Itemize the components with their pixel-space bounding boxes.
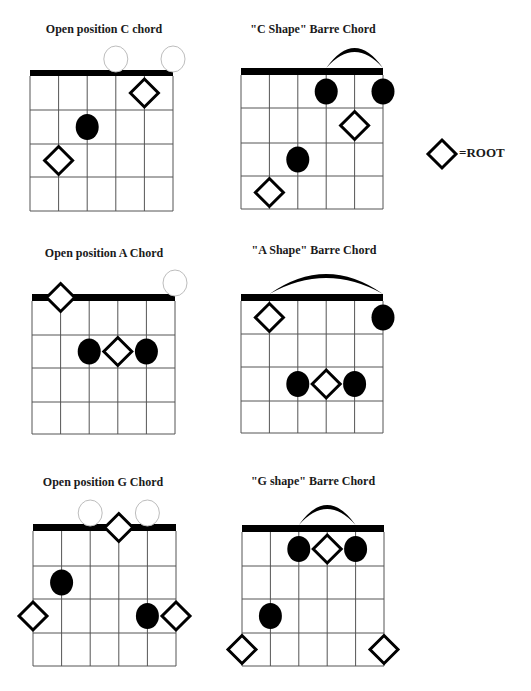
barre-arc [269, 274, 383, 294]
finger-dot [286, 147, 309, 173]
chord-diagrams-canvas [0, 0, 531, 691]
root-diamond [341, 112, 369, 140]
root-diamond [312, 370, 340, 398]
open-string-circle [161, 46, 185, 72]
finger-dot [344, 536, 367, 562]
chord-diagram-open-a [32, 270, 187, 434]
open-string-circle [104, 46, 128, 72]
barre-arc [326, 48, 383, 68]
root-diamond [45, 147, 73, 175]
chord-diagram-c-shape-barre [241, 48, 395, 209]
finger-dot [287, 536, 310, 562]
finger-dot [372, 79, 395, 105]
finger-dot [286, 371, 309, 397]
legend-root-diamond-icon [428, 140, 456, 168]
chord-diagram-open-g [19, 500, 190, 666]
chord-diagram-open-c [30, 46, 185, 211]
finger-dot [50, 570, 73, 596]
root-diamond [19, 602, 47, 630]
root-diamond [228, 636, 256, 664]
finger-dot [78, 339, 101, 365]
finger-dot [315, 79, 338, 105]
finger-dot [135, 339, 158, 365]
nut-bar [241, 294, 383, 301]
chord-diagram-g-shape-barre [228, 505, 398, 666]
root-diamond [255, 304, 283, 332]
finger-dot [259, 603, 282, 629]
nut-bar [30, 70, 173, 76]
root-diamond [47, 284, 75, 312]
root-diamond [255, 179, 283, 207]
finger-dot [76, 114, 99, 140]
open-string-circle [78, 500, 102, 526]
nut-bar [242, 525, 384, 532]
finger-dot [372, 305, 395, 331]
root-diamond [104, 338, 132, 366]
open-string-circle [163, 270, 187, 296]
chord-diagram-a-shape-barre [241, 274, 395, 433]
barre-arc [299, 505, 356, 525]
root-diamond [162, 602, 190, 630]
root-diamond [370, 636, 398, 664]
root-diamond [130, 79, 158, 107]
open-string-circle [135, 500, 159, 526]
finger-dot [343, 371, 366, 397]
root-diamond [105, 514, 133, 542]
legend-root-label: =ROOT [459, 145, 505, 161]
root-diamond [313, 535, 341, 563]
nut-bar [241, 68, 383, 75]
finger-dot [136, 603, 159, 629]
